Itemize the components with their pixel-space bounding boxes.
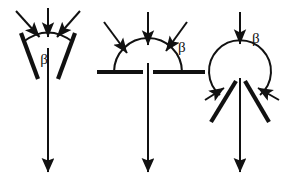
incoming-arrow-right — [57, 11, 80, 37]
panel-obtuse: β — [205, 12, 279, 172]
panel-right-beta-label: β — [178, 39, 186, 55]
panel-obtuse-surface-left — [211, 81, 236, 122]
panel-obtuse-surface-right — [245, 81, 269, 122]
panel-acute-beta-label: β — [40, 51, 48, 67]
panel-obtuse-beta-label: β — [252, 30, 260, 46]
panel-right: β — [97, 12, 205, 172]
figure-root: β β β — [0, 0, 299, 195]
panel-right-incoming-arrows — [104, 12, 187, 53]
contact-angle-figure: β β β — [0, 0, 299, 195]
panel-acute: β — [16, 8, 80, 172]
panel-acute-surface-left — [21, 33, 38, 79]
panel-acute-surface-right — [58, 33, 75, 79]
incoming-arrow-left — [16, 11, 40, 37]
